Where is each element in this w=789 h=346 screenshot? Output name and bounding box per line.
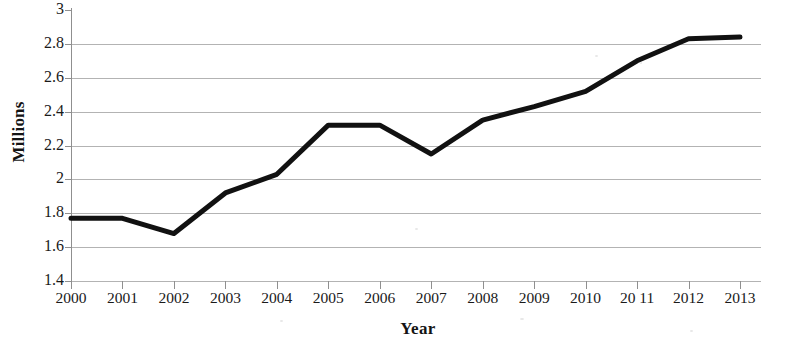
y-axis-tick [65,78,72,79]
scan-artifact [690,330,693,332]
x-axis-tick [740,281,741,289]
x-axis-title: Year [0,319,789,339]
x-axis-title-text: Year [400,319,436,339]
x-axis-tick [380,281,381,289]
x-axis-tick-label: 2013 [710,289,770,307]
x-axis-tick [277,281,278,289]
x-axis-tick [174,281,175,289]
y-axis-tick [65,44,72,45]
y-axis-tick [65,10,72,11]
y-axis-tick [65,146,72,147]
scan-artifact [595,55,598,57]
scan-artifact [640,62,642,64]
x-axis-tick [122,281,123,289]
x-axis-tick [689,281,690,289]
y-axis-tick [65,213,72,214]
y-axis-tick [65,247,72,248]
scan-artifact [280,320,283,322]
x-axis-tick [637,281,638,289]
x-axis-tick [534,281,535,289]
series-line-millions [71,37,740,233]
line-chart: Millions 32.82.62.42.221.81.61.4 Year 20… [0,0,789,346]
x-axis-tick [431,281,432,289]
x-axis-tick [71,281,72,289]
x-axis-tick [586,281,587,289]
scan-artifact [415,228,418,230]
x-axis-tick [328,281,329,289]
x-axis-tick [483,281,484,289]
y-axis-tick [65,112,72,113]
x-axis-tick [225,281,226,289]
scan-artifact [520,318,524,320]
y-axis-tick [65,179,72,180]
